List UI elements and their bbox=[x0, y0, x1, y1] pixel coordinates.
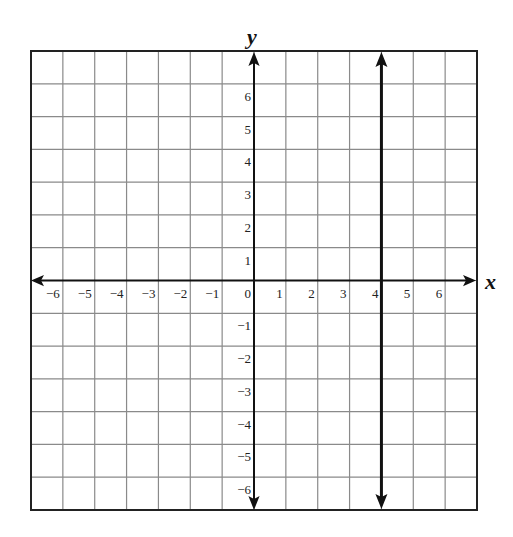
y-tick-label: −6 bbox=[237, 482, 251, 497]
y-tick-label: −1 bbox=[237, 318, 251, 333]
x-tick-label: −2 bbox=[173, 286, 187, 301]
y-tick-label: 5 bbox=[245, 122, 252, 137]
x-tick-labels: −6−5−4−3−2−10123456 bbox=[46, 286, 443, 301]
x-axis-label: x bbox=[484, 269, 496, 294]
x-tick-label: −1 bbox=[205, 286, 219, 301]
x-tick-label: 0 bbox=[245, 286, 252, 301]
x-tick-label: −5 bbox=[78, 286, 92, 301]
x-tick-label: −4 bbox=[110, 286, 124, 301]
x-tick-label: 6 bbox=[436, 286, 443, 301]
y-tick-label: 4 bbox=[245, 154, 252, 169]
y-tick-label: −4 bbox=[237, 417, 251, 432]
y-tick-label: 6 bbox=[245, 89, 252, 104]
y-tick-label: −3 bbox=[237, 384, 251, 399]
x-tick-label: −6 bbox=[46, 286, 60, 301]
x-tick-label: 2 bbox=[308, 286, 315, 301]
x-tick-label: 3 bbox=[340, 286, 347, 301]
y-axis-label: y bbox=[244, 24, 257, 49]
coordinate-plane: −6−5−4−3−2−10123456 654321−1−2−3−4−5−6 x… bbox=[0, 0, 513, 537]
y-tick-label: 2 bbox=[245, 220, 252, 235]
x-tick-label: −3 bbox=[142, 286, 156, 301]
y-tick-label: −5 bbox=[237, 449, 251, 464]
x-tick-label: 1 bbox=[276, 286, 283, 301]
x-tick-label: 5 bbox=[404, 286, 411, 301]
y-tick-label: 1 bbox=[245, 253, 252, 268]
x-tick-label: 4 bbox=[372, 286, 379, 301]
y-tick-label: 3 bbox=[245, 187, 252, 202]
y-tick-label: −2 bbox=[237, 351, 251, 366]
